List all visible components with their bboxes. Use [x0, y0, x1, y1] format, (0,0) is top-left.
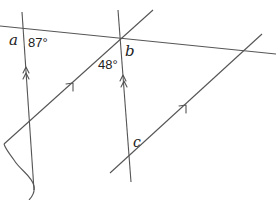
label-a: a [9, 33, 18, 48]
wavy-curve [4, 144, 34, 200]
geometry-diagram: a 87° b 48° c [0, 0, 276, 200]
angle-87-label: 87° [28, 36, 48, 49]
angle-48-label: 48° [98, 58, 118, 71]
label-b: b [125, 44, 135, 59]
label-c: c [133, 135, 141, 149]
diagram-lines [0, 0, 276, 200]
